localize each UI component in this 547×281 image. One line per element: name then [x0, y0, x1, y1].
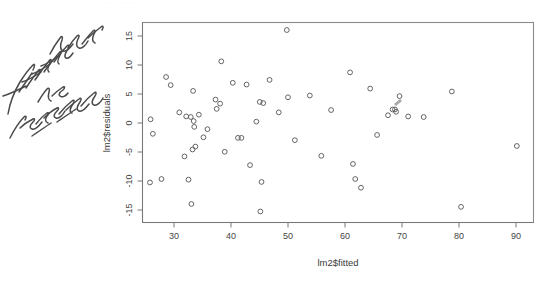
data-point	[276, 110, 281, 115]
data-point	[359, 185, 364, 190]
data-point	[193, 144, 198, 149]
data-point	[307, 93, 312, 98]
data-point	[214, 106, 219, 111]
y-tick-label: -5	[124, 148, 134, 156]
data-point	[201, 135, 206, 140]
data-point	[213, 97, 218, 102]
data-point	[514, 144, 519, 149]
x-tick-label: 60	[340, 231, 350, 241]
y-axis-ticks	[138, 36, 143, 210]
data-point	[189, 202, 194, 207]
x-tick-label: 70	[397, 231, 407, 241]
data-point	[351, 162, 356, 167]
data-point	[284, 28, 289, 33]
data-point	[319, 153, 324, 158]
data-point	[368, 86, 373, 91]
data-point	[164, 75, 169, 80]
data-point	[292, 138, 297, 143]
data-point	[159, 177, 164, 182]
data-point	[150, 131, 155, 136]
data-point	[329, 108, 334, 113]
scatter-plot-figure: 30 40 50 60 70 80 90 lm2$fitted	[0, 0, 547, 281]
data-point	[222, 149, 227, 154]
data-point	[406, 114, 411, 119]
data-point	[184, 114, 189, 119]
data-point	[196, 112, 201, 117]
x-tick-label: 30	[169, 231, 179, 241]
data-point	[230, 80, 235, 85]
data-point	[353, 177, 358, 182]
data-point	[190, 147, 195, 152]
x-tick-label: 50	[283, 231, 293, 241]
data-point	[258, 209, 263, 214]
y-tick-label: 15	[124, 31, 134, 41]
data-point	[348, 70, 353, 75]
data-point	[192, 124, 197, 129]
y-tick-label: 0	[124, 120, 134, 125]
data-point	[254, 119, 259, 124]
data-point	[449, 89, 454, 94]
data-point	[191, 89, 196, 94]
data-point	[205, 127, 210, 132]
y-tick-label: 10	[124, 60, 134, 70]
data-point	[219, 59, 224, 64]
data-point	[386, 113, 391, 118]
x-axis: 30 40 50 60 70 80 90 lm2$fitted	[143, 223, 534, 269]
y-axis: 15 10 5 0 -5 -10 -15 lm2$residuals	[101, 23, 143, 223]
data-point	[148, 117, 153, 122]
x-tick-label: 40	[226, 231, 236, 241]
plot-frame	[143, 23, 534, 223]
data-point	[259, 180, 264, 185]
data-point	[191, 119, 196, 124]
data-point	[397, 94, 402, 99]
data-point	[375, 133, 380, 138]
scanned-page: . . . . . . . . .	[0, 0, 547, 281]
data-point	[186, 177, 191, 182]
scan-smudge-artifact	[394, 99, 402, 106]
y-axis-title: lm2$residuals	[101, 93, 112, 152]
x-tick-label: 90	[511, 231, 521, 241]
data-points-layer	[148, 28, 520, 214]
data-point	[218, 101, 223, 106]
data-point	[267, 77, 272, 82]
y-tick-label: 5	[124, 91, 134, 96]
data-point	[239, 135, 244, 140]
data-point	[168, 83, 173, 88]
y-tick-label: -10	[124, 174, 134, 187]
data-point	[177, 110, 182, 115]
y-tick-label: -15	[124, 203, 134, 216]
data-point	[148, 180, 153, 185]
x-tick-label: 80	[454, 231, 464, 241]
data-point	[286, 95, 291, 100]
x-axis-title: lm2$fitted	[317, 257, 358, 268]
data-point	[248, 163, 253, 168]
x-axis-ticks	[174, 223, 516, 228]
data-point	[182, 154, 187, 159]
data-point	[421, 115, 426, 120]
data-point	[244, 82, 249, 87]
data-point	[459, 204, 464, 209]
